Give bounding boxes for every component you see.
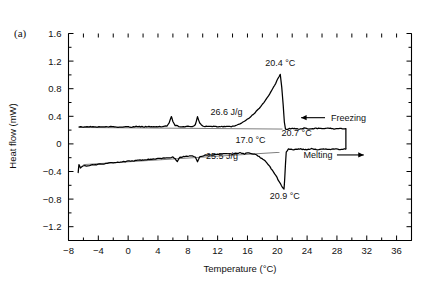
freezing-enthalpy: 26.6 J/g (211, 107, 243, 117)
y-tick-label: 0.4 (48, 111, 61, 122)
dsc-thermogram-figure: (a) −8−404812162024283236 1.61.20.80.40−… (0, 0, 429, 286)
x-tick-label: 16 (242, 245, 253, 256)
x-tick-label: 0 (126, 245, 131, 256)
y-tick-label: −1.2 (43, 221, 62, 232)
y-tick-label: 1.6 (48, 28, 61, 39)
x-tick-label: 20 (272, 245, 283, 256)
x-tick-label: −8 (63, 245, 74, 256)
y-tick-label: 1.2 (48, 56, 61, 67)
melting-onset-temp: 17.0 °C (235, 135, 266, 145)
x-tick-label: 32 (361, 245, 372, 256)
x-tick-label: 28 (332, 245, 343, 256)
x-tick-label: 36 (391, 245, 402, 256)
y-tick-label: −0.8 (43, 194, 62, 205)
x-tick-label: 8 (185, 245, 190, 256)
freezing-onset-temp: 20.7 °C (282, 128, 313, 138)
x-tick-label: −4 (93, 245, 104, 256)
x-axis-title: Temperature (°C) (204, 263, 277, 274)
y-tick-label: 0.8 (48, 83, 61, 94)
x-tick-label: 12 (212, 245, 223, 256)
figure-background (0, 0, 429, 286)
y-tick-label: 0 (56, 138, 61, 149)
melting-direction-label: Melting (303, 150, 332, 160)
x-tick-label: 24 (302, 245, 313, 256)
melting-peak-temp: 20.9 °C (270, 191, 301, 201)
melting-enthalpy: 25.5 J/g (206, 151, 238, 161)
freezing-direction-label: Freezing (331, 113, 366, 123)
panel-label: (a) (14, 27, 27, 40)
y-tick-label: −0.4 (43, 166, 62, 177)
freezing-peak-temp: 20.4 °C (265, 58, 296, 68)
x-tick-label: 4 (155, 245, 160, 256)
y-axis-title: Heat flow (mW) (7, 103, 18, 168)
